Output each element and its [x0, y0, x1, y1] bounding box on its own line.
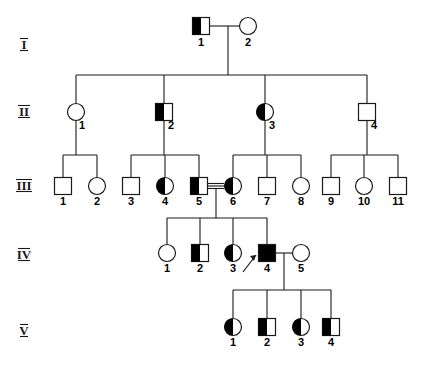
- individual-number-III-10: 10: [358, 195, 370, 207]
- individual-number-II-3: 3: [269, 119, 275, 131]
- individual-IV-2[interactable]: 2: [192, 245, 209, 275]
- symbol-halffill-V-4: [323, 319, 332, 336]
- symbol-square-III-7[interactable]: [259, 178, 276, 195]
- generation-labels: IIIIIIIVV: [16, 37, 32, 338]
- pedigree-chart: 1212341234567891011123451234IIIIIIIVV: [0, 0, 424, 366]
- symbol-circle-III-10[interactable]: [356, 178, 373, 195]
- individual-III-2[interactable]: 2: [89, 178, 106, 208]
- symbol-square-III-9[interactable]: [323, 178, 340, 195]
- individual-III-11[interactable]: 11: [390, 178, 407, 208]
- symbol-halffill-I-1: [193, 18, 202, 35]
- individual-number-I-1: 1: [198, 36, 204, 48]
- generation-label-III: III: [16, 178, 31, 193]
- individual-number-V-1: 1: [230, 336, 236, 348]
- individual-number-II-1: 1: [79, 119, 85, 131]
- individual-III-7[interactable]: 7: [259, 178, 276, 208]
- individual-number-IV-5: 5: [298, 262, 304, 274]
- individual-number-III-11: 11: [392, 195, 404, 207]
- individual-V-4[interactable]: 4: [323, 319, 340, 349]
- individual-number-III-5: 5: [196, 195, 202, 207]
- individual-number-III-7: 7: [264, 195, 270, 207]
- individual-number-II-2: 2: [168, 119, 174, 131]
- individual-IV-3[interactable]: 3: [225, 245, 242, 275]
- individual-number-III-1: 1: [60, 195, 66, 207]
- symbol-halffill-III-6: [225, 178, 234, 195]
- symbol-square-II-4[interactable]: [359, 104, 376, 121]
- symbol-halffill-III-5: [191, 178, 200, 195]
- symbol-circle-IV-1[interactable]: [159, 245, 176, 262]
- individual-number-IV-3: 3: [230, 262, 236, 274]
- symbol-halffill-II-2: [156, 104, 165, 121]
- individual-number-IV-2: 2: [197, 262, 203, 274]
- individual-number-IV-4: 4: [264, 262, 271, 274]
- symbol-square-III-11[interactable]: [390, 178, 407, 195]
- symbol-square-III-1[interactable]: [55, 178, 72, 195]
- individual-III-6[interactable]: 6: [225, 178, 242, 208]
- individual-IV-1[interactable]: 1: [159, 245, 176, 275]
- individual-number-III-9: 9: [328, 195, 334, 207]
- individual-III-9[interactable]: 9: [323, 178, 340, 208]
- individual-symbols: 1212341234567891011123451234: [55, 18, 407, 349]
- individual-V-1[interactable]: 1: [225, 319, 242, 349]
- symbol-circle-I-2[interactable]: [240, 18, 257, 35]
- symbol-circle-II-1[interactable]: [68, 104, 85, 121]
- proband-arrow: [243, 255, 256, 272]
- individual-number-III-4: 4: [162, 195, 169, 207]
- individual-number-V-4: 4: [328, 336, 335, 348]
- symbol-halffill-III-4: [157, 178, 166, 195]
- individual-II-2[interactable]: 2: [156, 104, 175, 132]
- symbol-halffill-V-3: [293, 319, 302, 336]
- connector-lines: [63, 26, 398, 318]
- individual-number-III-3: 3: [128, 195, 134, 207]
- symbol-square-IV-4[interactable]: [259, 245, 276, 262]
- symbol-square-III-3[interactable]: [123, 178, 140, 195]
- symbol-halffill-V-1: [225, 319, 234, 336]
- individual-III-10[interactable]: 10: [356, 178, 373, 208]
- individual-number-III-6: 6: [230, 195, 236, 207]
- symbol-halffill-II-3: [257, 104, 266, 121]
- individual-III-3[interactable]: 3: [123, 178, 140, 208]
- individual-number-V-2: 2: [264, 336, 270, 348]
- individual-number-IV-1: 1: [164, 262, 170, 274]
- individual-IV-4[interactable]: 4: [259, 245, 276, 275]
- individual-number-III-8: 8: [298, 195, 304, 207]
- symbol-halffill-IV-3: [225, 245, 234, 262]
- individual-number-V-3: 3: [298, 336, 304, 348]
- generation-label-II: II: [19, 104, 29, 119]
- proband-arrow-head: [250, 255, 256, 261]
- individual-I-1[interactable]: 1: [193, 18, 210, 49]
- individual-V-2[interactable]: 2: [259, 319, 276, 349]
- symbol-circle-IV-5[interactable]: [293, 245, 310, 262]
- individual-number-I-2: 2: [245, 36, 251, 48]
- individual-IV-5[interactable]: 5: [293, 245, 310, 275]
- generation-label-IV: IV: [17, 247, 32, 262]
- individual-number-III-2: 2: [94, 195, 100, 207]
- pedigree-canvas: 1212341234567891011123451234IIIIIIIVV: [0, 0, 424, 366]
- symbol-circle-III-8[interactable]: [293, 178, 310, 195]
- individual-II-3[interactable]: 3: [257, 104, 276, 132]
- individual-I-2[interactable]: 2: [240, 18, 257, 49]
- individual-III-1[interactable]: 1: [55, 178, 72, 208]
- individual-III-4[interactable]: 4: [157, 178, 174, 208]
- individual-number-II-4: 4: [371, 119, 378, 131]
- individual-V-3[interactable]: 3: [293, 319, 310, 349]
- symbol-circle-III-2[interactable]: [89, 178, 106, 195]
- individual-II-4[interactable]: 4: [359, 104, 378, 132]
- individual-III-8[interactable]: 8: [293, 178, 310, 208]
- symbol-halffill-V-2: [259, 319, 268, 336]
- generation-label-I: I: [21, 37, 26, 52]
- symbol-halffill-IV-2: [192, 245, 201, 262]
- generation-label-V: V: [19, 323, 29, 338]
- individual-III-5[interactable]: 5: [191, 178, 208, 208]
